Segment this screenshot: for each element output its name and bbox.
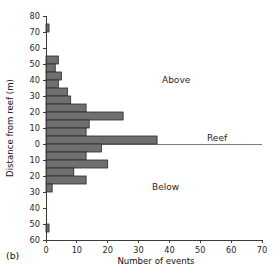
y-tick-label: 40 (30, 203, 40, 213)
histogram-bar (46, 72, 61, 80)
y-tick-label: 50 (30, 59, 40, 69)
x-tick-label: 50 (195, 245, 205, 255)
y-tick-label: 60 (30, 43, 40, 53)
x-tick-label: 70 (257, 245, 267, 255)
x-tick-label: 60 (226, 245, 236, 255)
histogram-bar (46, 144, 102, 152)
histogram-bar (46, 80, 58, 88)
annotation-above: Above (162, 75, 191, 85)
y-tick-label: 20 (30, 171, 40, 181)
annotation-reef: Reef (207, 133, 228, 143)
y-tick-label: 0 (35, 139, 40, 149)
histogram-bar (46, 64, 55, 72)
y-tick-label: 50 (30, 219, 40, 229)
y-tick-label: 60 (30, 235, 40, 245)
histogram-bar (46, 136, 157, 144)
y-tick-label: 20 (30, 107, 40, 117)
histogram-bar (46, 56, 58, 64)
x-tick-label: 0 (43, 245, 48, 255)
y-tick-label: 70 (30, 27, 40, 37)
histogram-bar (46, 128, 86, 136)
histogram-bar (46, 88, 68, 96)
histogram-bar (46, 104, 86, 112)
histogram-bar (46, 112, 123, 120)
y-axis-title: Distance from reef (m) (5, 79, 15, 177)
histogram-chart: 80706050403020100102030405060 0102030405… (0, 0, 273, 271)
annotation-below: Below (152, 182, 179, 192)
x-tick-label: 30 (133, 245, 143, 255)
histogram-bar (46, 120, 89, 128)
y-tick-label: 10 (30, 123, 40, 133)
histogram-bar (46, 168, 74, 176)
x-axis-title: Number of events (117, 256, 195, 266)
figure-panel-b: 80706050403020100102030405060 0102030405… (0, 0, 273, 271)
histogram-bar (46, 176, 86, 184)
histogram-bar (46, 96, 71, 104)
histogram-bar (46, 152, 86, 160)
y-tick-label: 40 (30, 75, 40, 85)
panel-label: (b) (6, 250, 19, 261)
y-tick-label: 30 (30, 187, 40, 197)
x-tick-label: 40 (164, 245, 174, 255)
y-tick-label: 10 (30, 155, 40, 165)
histogram-bar (46, 160, 108, 168)
x-tick-label: 10 (72, 245, 82, 255)
chart-background (0, 0, 273, 271)
y-tick-label: 30 (30, 91, 40, 101)
y-tick-label: 80 (30, 11, 40, 21)
x-tick-label: 20 (103, 245, 113, 255)
histogram-bar (46, 184, 52, 192)
